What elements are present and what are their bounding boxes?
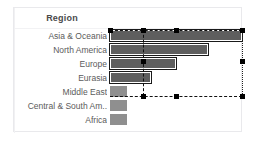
bar-north-america[interactable] <box>110 44 208 55</box>
bar-label: Africa <box>14 113 107 127</box>
bar-row-europe[interactable]: Europe <box>14 57 243 71</box>
bar-label: Europe <box>14 57 107 71</box>
selection-handle-bottom-center[interactable] <box>174 94 179 99</box>
bar-label: Central & South Am.. <box>14 99 107 113</box>
selection-handle-bottom-left[interactable] <box>141 94 146 99</box>
selection-handle-top-right[interactable] <box>240 28 245 33</box>
bar-label: Middle East <box>14 85 107 99</box>
selection-handle-top-left[interactable] <box>108 28 113 33</box>
bar-label: Asia & Oceania <box>14 29 107 43</box>
bar-row-central-south-america[interactable]: Central & South Am.. <box>14 99 243 113</box>
bar-rows: Asia & Oceania North America Europe Eura… <box>14 8 243 133</box>
chart-screenshot: Region Asia & Oceania North America Euro… <box>0 0 255 144</box>
bar-africa[interactable] <box>110 114 127 125</box>
selection-handle-bottom-right[interactable] <box>240 94 245 99</box>
bar-row-north-america[interactable]: North America <box>14 43 243 57</box>
bar-eurasia[interactable] <box>110 72 151 83</box>
selection-handle-mid-left[interactable] <box>141 59 146 64</box>
bar-row-africa[interactable]: Africa <box>14 113 243 127</box>
bar-row-asia-oceania[interactable]: Asia & Oceania <box>14 29 243 43</box>
selection-handle-mid-right[interactable] <box>240 59 245 64</box>
chart-card: Region Asia & Oceania North America Euro… <box>13 7 242 132</box>
selection-handle-top-mid-left[interactable] <box>141 28 146 33</box>
bar-row-eurasia[interactable]: Eurasia <box>14 71 243 85</box>
bar-label: Eurasia <box>14 71 107 85</box>
bar-label: North America <box>14 43 107 57</box>
selection-handle-top-center[interactable] <box>174 28 179 33</box>
bar-central-south-america[interactable] <box>110 100 127 111</box>
